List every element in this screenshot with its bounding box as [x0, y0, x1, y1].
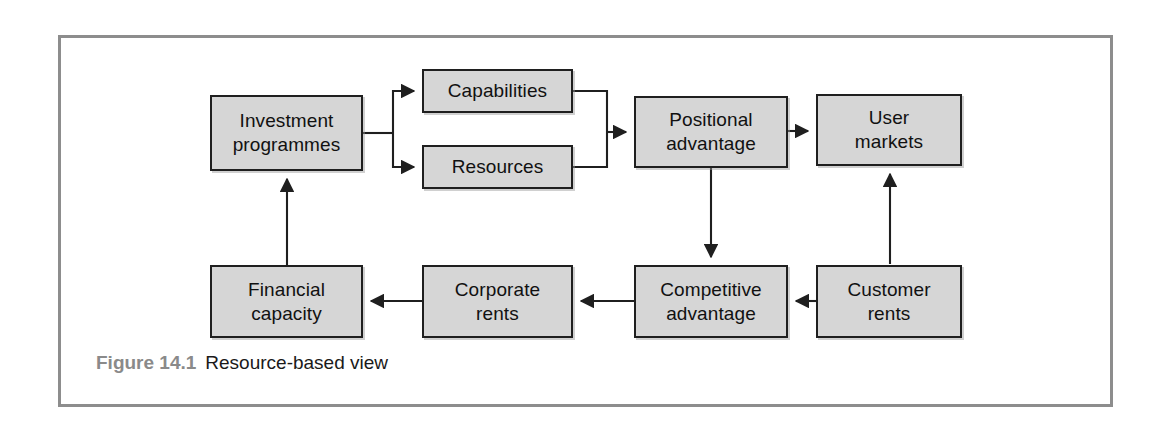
node-corporate-rents[interactable]: Corporate rents — [422, 265, 573, 338]
node-financial-capacity[interactable]: Financial capacity — [210, 265, 363, 338]
figure-number: Figure 14.1 — [96, 352, 196, 373]
node-label: Corporate rents — [451, 278, 544, 325]
node-customer-rents[interactable]: Customer rents — [816, 265, 962, 338]
node-resources[interactable]: Resources — [422, 145, 573, 189]
node-label: Positional advantage — [662, 108, 760, 155]
node-capabilities[interactable]: Capabilities — [422, 69, 573, 113]
figure-caption: Figure 14.1Resource-based view — [96, 352, 388, 374]
node-user-markets[interactable]: User markets — [816, 94, 962, 166]
node-label: Customer rents — [843, 278, 934, 325]
node-label: Financial capacity — [244, 278, 329, 325]
figure-title: Resource-based view — [205, 352, 388, 373]
node-label: User markets — [851, 106, 927, 153]
node-investment-programmes[interactable]: Investment programmes — [210, 95, 363, 171]
node-competitive-advantage[interactable]: Competitive advantage — [634, 265, 788, 338]
node-positional-advantage[interactable]: Positional advantage — [634, 96, 788, 168]
node-label: Competitive advantage — [656, 278, 765, 325]
node-label: Capabilities — [444, 79, 551, 103]
node-label: Resources — [448, 155, 548, 179]
node-label: Investment programmes — [229, 109, 345, 156]
figure-container: Investment programmes Capabilities Resou… — [0, 0, 1161, 425]
